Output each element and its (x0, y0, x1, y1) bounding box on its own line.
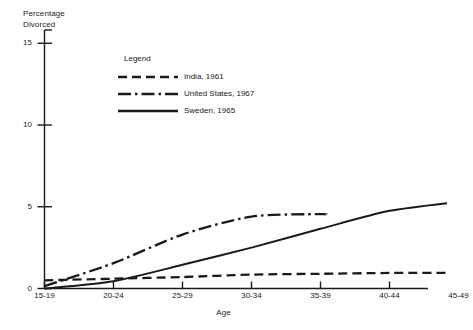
x-tick-label-15-19: 15-19 (23, 291, 67, 300)
legend-label-0: India, 1961 (184, 72, 224, 81)
legend-items: India, 1961United States, 1967Sweden, 19… (118, 68, 293, 119)
series-line-0 (45, 273, 448, 280)
legend-title: Legend (124, 54, 293, 63)
x-tick-label-35-39: 35-39 (299, 291, 343, 300)
y-tick-label-10: 10 (10, 120, 32, 129)
x-tick-label-20-24: 20-24 (92, 291, 136, 300)
x-tick-label-25-29: 25-29 (161, 291, 205, 300)
chart-legend: Legend India, 1961United States, 1967Swe… (118, 54, 293, 119)
legend-label-2: Sweden, 1965 (184, 106, 235, 115)
legend-item-2: Sweden, 1965 (118, 102, 293, 119)
legend-item-0: India, 1961 (118, 68, 293, 85)
y-tick-label-5: 5 (10, 202, 32, 211)
x-axis-title: Age (0, 308, 447, 319)
legend-swatch-solid-icon (118, 106, 178, 116)
x-tick-label-45-49: 45-49 (437, 291, 473, 300)
x-tick-label-40-44: 40-44 (368, 291, 412, 300)
legend-swatch-dashed-icon (118, 72, 178, 82)
legend-swatch-dash-dot-icon (118, 89, 178, 99)
legend-label-1: United States, 1967 (184, 89, 254, 98)
x-tick-label-30-34: 30-34 (230, 291, 274, 300)
legend-item-1: United States, 1967 (118, 85, 293, 102)
y-tick-label-15: 15 (10, 38, 32, 47)
data-series-lines (45, 202, 448, 289)
